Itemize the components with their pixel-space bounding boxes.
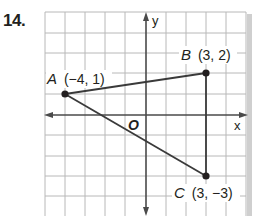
- point-a: [61, 90, 68, 97]
- point-a-coords: (−4, 1): [64, 71, 105, 87]
- point-a-label: A (−4, 1): [46, 70, 105, 87]
- point-c-letter: C: [174, 184, 185, 201]
- point-b-label: B (3, 2): [181, 46, 231, 63]
- point-c: [202, 172, 209, 179]
- x-axis-label: x: [234, 118, 241, 133]
- point-a-letter: A: [46, 70, 57, 87]
- y-axis-label: y: [152, 13, 159, 28]
- y-axis-down-arrow-icon: [143, 207, 149, 216]
- coordinate-graph: y x O A (−4, 1) B (3, 2) C (3, −3): [0, 0, 261, 216]
- point-b-letter: B: [181, 46, 191, 63]
- y-axis-up-arrow-icon: [143, 12, 149, 21]
- point-c-label: C (3, −3): [174, 184, 233, 201]
- point-b: [202, 69, 209, 76]
- origin-label: O: [128, 117, 139, 133]
- point-c-coords: (3, −3): [192, 185, 233, 201]
- point-b-coords: (3, 2): [198, 47, 231, 63]
